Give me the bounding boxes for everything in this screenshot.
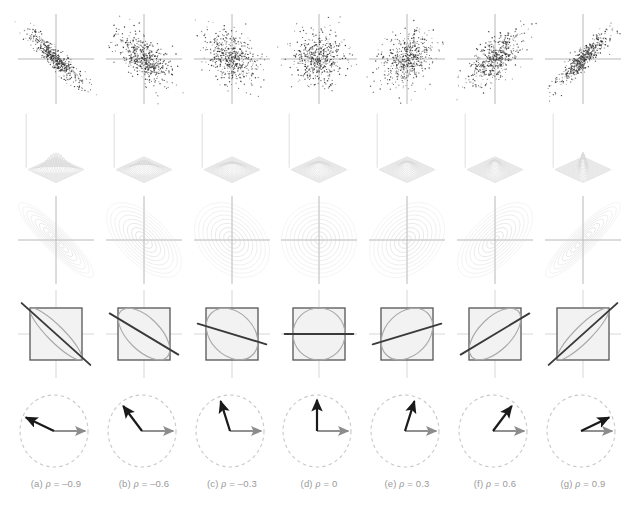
caption-letter: (d) [301, 478, 313, 489]
contour-panel-5 [457, 196, 533, 284]
scatter-panel-6 [545, 14, 621, 104]
vector-angle-panel-1 [106, 386, 182, 468]
density-surface-panel-2 [194, 112, 270, 190]
caption-equals: = [54, 478, 60, 489]
caption-value: 0.6 [503, 478, 517, 489]
caption-letter: (f) [474, 478, 483, 489]
density-surface-panel-0 [18, 112, 94, 190]
scatter-panel-0 [18, 14, 94, 104]
caption-value: –0.9 [62, 478, 81, 489]
vector-angle-panel-3 [281, 386, 357, 468]
square-ellipse-panel-0 [18, 290, 94, 378]
square-ellipse-panel-3 [281, 290, 357, 378]
scatter-panel-2 [194, 14, 270, 104]
square-ellipse-panel-1 [106, 290, 182, 378]
panel-caption-1: (b) ρ = –0.6 [106, 478, 182, 489]
vector-angle-panel-6 [545, 386, 621, 468]
caption-rho-symbol: ρ [315, 478, 320, 489]
panel-caption-2: (c) ρ = –0.3 [194, 478, 270, 489]
caption-equals: = [583, 478, 589, 489]
vector-angle-panel-0 [18, 386, 94, 468]
caption-rho-symbol: ρ [221, 478, 226, 489]
panel-caption-6: (g) ρ = 0.9 [545, 478, 621, 489]
caption-value: 0.3 [416, 478, 430, 489]
square-ellipse-panel-4 [369, 290, 445, 378]
panel-caption-3: (d) ρ = 0 [281, 478, 357, 489]
panel-caption-4: (e) ρ = 0.3 [369, 478, 445, 489]
caption-letter: (g) [560, 478, 572, 489]
square-ellipse-panel-2 [194, 290, 270, 378]
density-surface-panel-5 [457, 112, 533, 190]
caption-rho-symbol: ρ [486, 478, 491, 489]
caption-rho-symbol: ρ [575, 478, 580, 489]
scatter-panel-4 [369, 14, 445, 104]
caption-equals: = [323, 478, 329, 489]
density-surface-panel-1 [106, 112, 182, 190]
caption-value: 0 [332, 478, 337, 489]
caption-letter: (c) [207, 478, 219, 489]
caption-equals: = [494, 478, 500, 489]
caption-rho-symbol: ρ [46, 478, 51, 489]
panel-grid [0, 0, 637, 508]
caption-equals: = [142, 478, 148, 489]
contour-panel-0 [18, 196, 94, 284]
contour-panel-6 [545, 196, 621, 284]
vector-angle-panel-2 [194, 386, 270, 468]
scatter-panel-1 [106, 14, 182, 104]
caption-equals: = [407, 478, 413, 489]
density-surface-panel-4 [369, 112, 445, 190]
contour-panel-3 [281, 196, 357, 284]
contour-panel-2 [194, 196, 270, 284]
vector-angle-panel-5 [457, 386, 533, 468]
density-surface-panel-6 [545, 112, 621, 190]
caption-letter: (b) [119, 478, 131, 489]
caption-equals: = [229, 478, 235, 489]
contour-panel-1 [106, 196, 182, 284]
scatter-panel-3 [281, 14, 357, 104]
panel-caption-0: (a) ρ = –0.9 [18, 478, 94, 489]
caption-rho-symbol: ρ [399, 478, 404, 489]
panel-caption-5: (f) ρ = 0.6 [457, 478, 533, 489]
caption-letter: (e) [384, 478, 396, 489]
caption-value: –0.3 [238, 478, 257, 489]
scatter-panel-5 [457, 14, 533, 104]
caption-value: 0.9 [592, 478, 606, 489]
correlation-figure: (a) ρ = –0.9(b) ρ = –0.6(c) ρ = –0.3(d) … [0, 0, 637, 508]
caption-value: –0.6 [150, 478, 169, 489]
contour-panel-4 [369, 196, 445, 284]
caption-rho-symbol: ρ [134, 478, 139, 489]
vector-angle-panel-4 [369, 386, 445, 468]
density-surface-panel-3 [281, 112, 357, 190]
caption-letter: (a) [31, 478, 43, 489]
square-ellipse-panel-6 [545, 290, 621, 378]
square-ellipse-panel-5 [457, 290, 533, 378]
